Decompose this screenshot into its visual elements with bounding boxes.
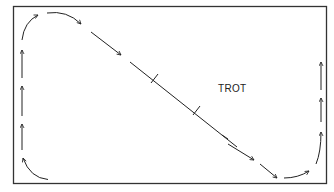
- arrow-icon: [91, 32, 121, 55]
- arena-border: [14, 7, 327, 184]
- tick-mark: [193, 106, 200, 115]
- arrow-icon: [47, 12, 81, 24]
- arrow-icon: [260, 164, 277, 178]
- arrow-icon: [284, 171, 309, 178]
- arrow-icon: [23, 158, 48, 180]
- trot-label: TROT: [218, 83, 246, 94]
- arrow-icon: [222, 135, 228, 139]
- diagonal-line: [130, 62, 237, 147]
- arrow-icon: [228, 144, 254, 160]
- arena-diagram: [0, 0, 334, 192]
- arrow-icon: [22, 15, 38, 40]
- arrow-icon: [316, 132, 321, 164]
- track-arrows: [22, 12, 321, 179]
